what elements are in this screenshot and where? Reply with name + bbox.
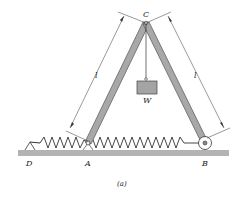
label-w: W bbox=[143, 96, 152, 105]
label-b: B bbox=[201, 159, 208, 168]
truss-spring-diagram: C A B D W l l (a) bbox=[0, 0, 244, 197]
ground bbox=[18, 150, 229, 156]
weight-block bbox=[137, 81, 157, 94]
dimension-label-right: l bbox=[194, 71, 197, 80]
label-a: A bbox=[84, 159, 91, 168]
pin-b bbox=[203, 141, 207, 145]
dimension-label-left: l bbox=[95, 71, 98, 80]
hook bbox=[145, 78, 148, 81]
spring-ab bbox=[88, 137, 200, 148]
dimension-left bbox=[66, 12, 146, 141]
dimension-right bbox=[146, 12, 230, 138]
fixed-support-d bbox=[25, 142, 40, 150]
label-c: C bbox=[143, 10, 149, 19]
label-d: D bbox=[25, 159, 33, 168]
pin-a bbox=[86, 141, 90, 145]
spring-da bbox=[40, 137, 88, 148]
figure-caption: (a) bbox=[117, 180, 127, 188]
